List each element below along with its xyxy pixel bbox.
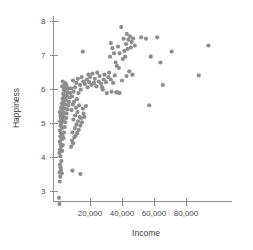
data-point xyxy=(71,118,75,122)
y-tick-label-8: 8 xyxy=(41,17,46,26)
data-point xyxy=(61,143,65,147)
data-point xyxy=(81,107,85,111)
data-point xyxy=(170,50,174,54)
data-point xyxy=(119,25,123,29)
y-axis-title: Happiness xyxy=(11,88,21,128)
data-point xyxy=(63,125,67,129)
x-axis-title: Income xyxy=(132,228,160,238)
data-points-group xyxy=(57,25,211,206)
data-point xyxy=(58,179,62,183)
data-point xyxy=(120,78,124,82)
scatter-chart: 34567820,00040,00060,00080,000IncomeHapp… xyxy=(0,0,253,250)
data-point xyxy=(73,85,77,89)
data-point xyxy=(77,103,81,107)
data-point xyxy=(147,103,151,107)
x-tick-label-60000: 60,000 xyxy=(142,209,167,218)
data-point xyxy=(118,51,122,55)
data-point xyxy=(78,172,82,176)
data-point xyxy=(123,55,127,59)
data-point xyxy=(105,91,109,95)
data-point xyxy=(70,108,74,112)
data-point xyxy=(57,196,61,200)
data-point xyxy=(131,37,135,41)
data-point xyxy=(76,77,80,81)
y-tick-label-6: 6 xyxy=(41,85,46,94)
data-point xyxy=(61,79,65,83)
data-point xyxy=(60,149,64,153)
y-tick-label-3: 3 xyxy=(41,187,46,196)
data-point xyxy=(125,32,129,36)
data-point xyxy=(71,78,75,82)
data-point xyxy=(139,35,143,39)
data-point xyxy=(62,130,66,134)
x-tick-label-40000: 40,000 xyxy=(110,209,135,218)
data-point xyxy=(70,94,74,98)
data-point xyxy=(70,169,74,173)
x-tick-label-80000: 80,000 xyxy=(174,209,199,218)
data-point xyxy=(110,90,114,94)
data-point xyxy=(79,88,83,92)
data-point xyxy=(111,81,115,85)
data-point xyxy=(101,88,105,92)
data-point xyxy=(108,55,112,59)
data-point xyxy=(59,159,63,163)
data-point xyxy=(60,171,64,175)
y-tick-label-7: 7 xyxy=(41,51,46,60)
data-point xyxy=(63,120,67,124)
data-point xyxy=(149,55,153,59)
data-point xyxy=(64,116,68,120)
data-point xyxy=(92,81,96,85)
data-point xyxy=(65,111,69,115)
data-point xyxy=(109,41,113,45)
data-point xyxy=(67,100,71,104)
data-point xyxy=(98,74,102,78)
data-point xyxy=(130,73,134,77)
data-point xyxy=(104,80,108,84)
data-point xyxy=(107,71,111,75)
data-point xyxy=(61,136,65,140)
data-point xyxy=(206,43,210,47)
data-point xyxy=(77,128,81,132)
data-point xyxy=(102,73,106,77)
data-point xyxy=(155,35,159,39)
data-point xyxy=(95,71,99,75)
data-point xyxy=(80,120,84,124)
data-point xyxy=(90,72,94,76)
data-point xyxy=(57,202,61,206)
data-point xyxy=(93,77,97,81)
y-tick-label-4: 4 xyxy=(41,153,46,162)
data-point xyxy=(116,44,120,48)
data-point xyxy=(78,83,82,87)
data-point xyxy=(161,83,165,87)
data-point xyxy=(112,51,116,55)
data-point xyxy=(80,75,84,79)
data-point xyxy=(117,66,121,70)
data-point xyxy=(60,84,64,88)
data-point xyxy=(129,45,133,49)
data-point xyxy=(81,50,85,54)
y-tick-label-5: 5 xyxy=(41,119,46,128)
data-point xyxy=(127,69,131,73)
data-point xyxy=(83,82,87,86)
data-point xyxy=(115,90,119,94)
data-point xyxy=(65,107,69,111)
data-point xyxy=(70,130,74,134)
data-point xyxy=(124,42,128,46)
data-point xyxy=(86,73,90,77)
data-point xyxy=(75,97,79,101)
data-point xyxy=(122,37,126,41)
data-point xyxy=(72,90,76,94)
data-point xyxy=(124,74,128,78)
data-point xyxy=(109,77,113,81)
data-point xyxy=(133,43,137,47)
data-point xyxy=(75,110,79,114)
data-point xyxy=(84,104,88,108)
data-point xyxy=(144,37,148,41)
plot-area: 34567820,00040,00060,00080,000IncomeHapp… xyxy=(0,0,253,250)
data-point xyxy=(82,115,86,119)
data-point xyxy=(69,86,73,90)
data-point xyxy=(94,84,98,88)
data-point xyxy=(71,141,75,145)
data-point xyxy=(86,85,90,89)
data-point xyxy=(110,46,114,50)
